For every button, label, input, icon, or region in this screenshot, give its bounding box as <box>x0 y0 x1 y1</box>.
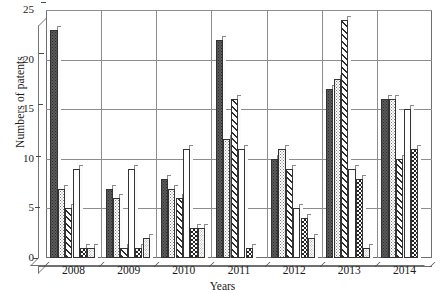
bar-2010-series-2-light-dotted <box>168 189 175 258</box>
bar-2011-series-2-light-dotted <box>223 139 230 258</box>
bar-2008-series-1-dark-dotted <box>50 30 57 258</box>
bar-2008-series-5-checkerboard <box>80 248 87 258</box>
x-axis-title: Years <box>0 280 445 292</box>
bar-2012-series-2-light-dotted <box>278 149 285 258</box>
bar-2009-series-5-checkerboard <box>135 248 142 258</box>
bar-series-layer <box>0 0 445 293</box>
bar-2013-series-2-light-dotted <box>334 79 341 258</box>
bar-2013-series-3-diagonal-hatch <box>341 20 348 258</box>
bar-2012-series-3-diagonal-hatch <box>286 169 293 258</box>
bar-2008-series-3-diagonal-hatch <box>65 208 72 258</box>
bar-2012-series-1-dark-dotted <box>271 159 278 258</box>
x-tick-label-2012: 2012 <box>264 264 324 276</box>
bar-2011-series-4-plain-white <box>238 149 245 258</box>
x-tick-label-2009: 2009 <box>99 264 159 276</box>
bar-2008-series-4-plain-white <box>73 169 80 258</box>
bar-2008-series-6-fine-dotted <box>87 248 94 258</box>
bar-2014-series-2-light-dotted <box>389 99 396 258</box>
bar-2014-series-3-diagonal-hatch <box>396 159 403 258</box>
bar-2009-series-1-dark-dotted <box>106 189 113 258</box>
bar-2012-series-5-checkerboard <box>301 218 308 258</box>
x-tick-label-2013: 2013 <box>319 264 379 276</box>
bar-chart: 0510152025 Numbers of patents 2008200920… <box>0 0 445 293</box>
bar-2010-series-1-dark-dotted <box>161 179 168 258</box>
bar-2011-series-3-diagonal-hatch <box>231 99 238 258</box>
bar-2008-series-2-light-dotted <box>58 189 65 258</box>
x-tick-label-2008: 2008 <box>44 264 104 276</box>
bar-2009-series-6-fine-dotted <box>143 238 150 258</box>
bar-2009-series-3-diagonal-hatch <box>120 248 127 258</box>
bar-2011-series-1-dark-dotted <box>216 40 223 258</box>
bar-2013-series-5-checkerboard <box>356 179 363 258</box>
x-tick-label-2014: 2014 <box>374 264 434 276</box>
bar-2011-series-5-checkerboard <box>246 248 253 258</box>
bar-2012-series-6-fine-dotted <box>308 238 315 258</box>
bar-2013-series-1-dark-dotted <box>326 89 333 258</box>
bar-2010-series-5-checkerboard <box>190 228 197 258</box>
bar-2013-series-4-plain-white <box>348 169 355 258</box>
bar-2009-series-4-plain-white <box>128 169 135 258</box>
bar-2009-series-2-light-dotted <box>113 198 120 258</box>
bar-2010-series-3-diagonal-hatch <box>176 198 183 258</box>
bar-2014-series-1-dark-dotted <box>381 99 388 258</box>
bar-2010-series-6-fine-dotted <box>198 228 205 258</box>
bar-2010-series-4-plain-white <box>183 149 190 258</box>
bar-2013-series-6-fine-dotted <box>363 248 370 258</box>
bar-2014-series-4-plain-white <box>404 109 411 258</box>
bar-2014-series-5-checkerboard <box>411 149 418 258</box>
bar-2012-series-4-plain-white <box>293 208 300 258</box>
x-tick-label-2010: 2010 <box>154 264 214 276</box>
x-tick-label-2011: 2011 <box>209 264 269 276</box>
